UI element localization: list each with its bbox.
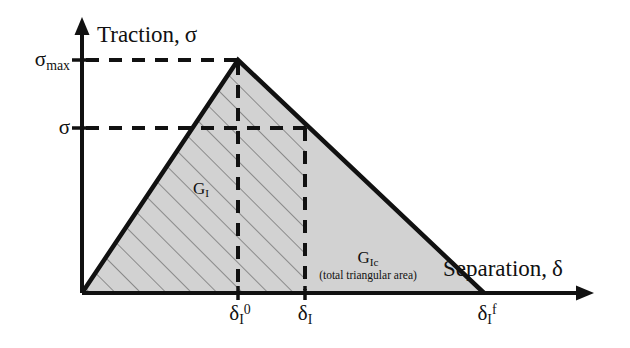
x-tick-label-delta-I-0: δI0 bbox=[229, 303, 250, 327]
x-tick-label-delta-I: δI bbox=[298, 303, 313, 327]
total-area-caption: (total triangular area) bbox=[319, 270, 417, 282]
x-axis-title: Separation,δ bbox=[443, 257, 563, 280]
delta-I-subscript: I bbox=[308, 312, 313, 327]
delta-I-f-superscript: f bbox=[492, 302, 497, 317]
delta-I-0-base: δ bbox=[229, 301, 239, 325]
y-axis-title-symbol: σ bbox=[185, 22, 197, 47]
total-area-label: GIc bbox=[358, 249, 379, 268]
x-tick-label-delta-I-f: δIf bbox=[477, 303, 496, 327]
delta-I-base: δ bbox=[298, 301, 308, 325]
G-I-base: G bbox=[193, 179, 205, 198]
G-Ic-subscript: Ic bbox=[370, 256, 379, 268]
x-axis-arrow-icon bbox=[576, 286, 594, 301]
G-Ic-base: G bbox=[358, 248, 370, 267]
sigma-max-base: σ bbox=[35, 47, 46, 71]
y-axis-title-text: Traction, bbox=[97, 22, 180, 47]
y-axis-title: Traction,σ bbox=[97, 23, 197, 46]
delta-I-f-base: δ bbox=[477, 301, 487, 325]
y-axis-arrow-icon bbox=[75, 17, 90, 35]
figure-canvas: Traction,σ Separation,δ σmax σ δI0 δI δI… bbox=[0, 0, 630, 348]
traction-separation-plot bbox=[0, 0, 630, 348]
sigma-base: σ bbox=[59, 115, 70, 139]
sigma-max-subscript: max bbox=[46, 58, 70, 73]
x-axis-title-text: Separation, bbox=[443, 256, 547, 281]
delta-I-0-superscript: 0 bbox=[244, 302, 251, 317]
x-axis-title-symbol: δ bbox=[552, 256, 563, 281]
G-I-subscript: I bbox=[205, 187, 209, 199]
hatched-area-label: GI bbox=[193, 180, 209, 199]
y-tick-label-sigma: σ bbox=[59, 117, 70, 138]
y-tick-label-sigma-max: σmax bbox=[35, 49, 70, 73]
